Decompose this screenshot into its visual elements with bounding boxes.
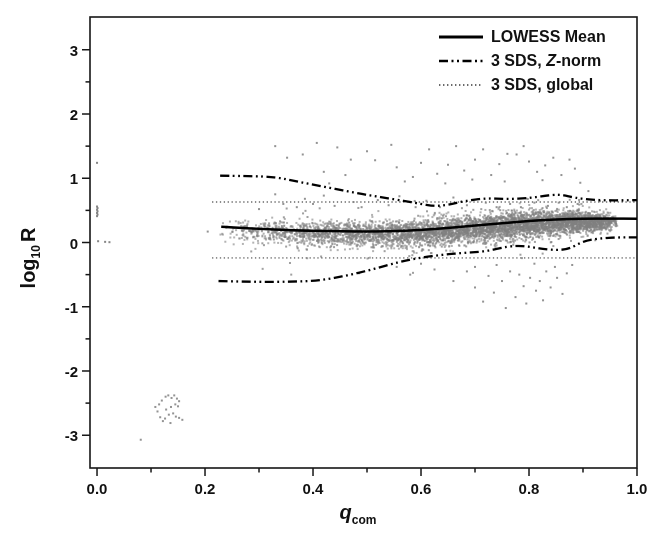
y-tick-label-0: 0 xyxy=(42,234,78,251)
dash-dot-dot-line-swatch-icon xyxy=(438,58,484,64)
y-tick-label--2: -2 xyxy=(42,362,78,379)
legend-label-lowess-mean: LOWESS Mean xyxy=(491,28,606,46)
y-axis-title-suffix: R xyxy=(17,228,39,242)
y-tick-label-2: 2 xyxy=(42,106,78,123)
x-tick-label-0.4: 0.4 xyxy=(303,480,324,497)
legend-label-sds-global: 3 SDS, global xyxy=(491,76,593,94)
y-axis-title-main: log xyxy=(17,258,39,288)
x-tick-label-0.0: 0.0 xyxy=(87,480,108,497)
x-tick-label-0.8: 0.8 xyxy=(519,480,540,497)
y-tick-label-3: 3 xyxy=(42,41,78,58)
solid-line-swatch-icon xyxy=(438,34,484,40)
legend-entry-lowess-mean: LOWESS Mean xyxy=(438,25,606,49)
scatter-figure: 0.00.20.40.60.81.03210-1-2-3 log10R qcom… xyxy=(0,0,670,549)
y-axis-title-sub: 10 xyxy=(29,245,43,258)
legend-label-sds-znorm: 3 SDS, Z-norm xyxy=(491,52,601,70)
x-tick-label-0.6: 0.6 xyxy=(411,480,432,497)
legend-entry-sds-global: 3 SDS, global xyxy=(438,73,606,97)
x-axis-title: qcom xyxy=(340,501,377,527)
x-tick-label-0.2: 0.2 xyxy=(195,480,216,497)
y-tick-label--3: -3 xyxy=(42,427,78,444)
y-tick-label-1: 1 xyxy=(42,170,78,187)
legend: LOWESS Mean 3 SDS, Z-norm 3 SDS, global xyxy=(438,25,606,97)
dotted-line-swatch-icon xyxy=(438,82,484,88)
legend-entry-sds-znorm: 3 SDS, Z-norm xyxy=(438,49,606,73)
x-axis-title-sub: com xyxy=(352,513,377,527)
y-axis-title: log10R xyxy=(17,228,43,289)
x-tick-label-1.0: 1.0 xyxy=(627,480,648,497)
y-tick-label--1: -1 xyxy=(42,298,78,315)
x-axis-title-main: q xyxy=(340,501,352,523)
